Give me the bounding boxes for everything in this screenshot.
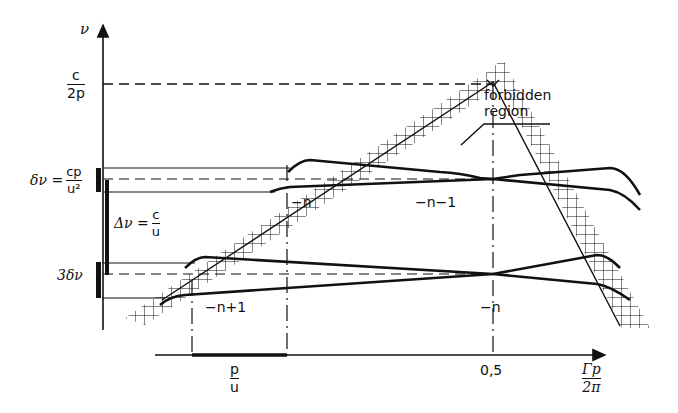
Delta-nu-label: Δν = c u — [114, 208, 160, 238]
allowed-boundary — [162, 82, 620, 326]
branch-lower-a — [185, 257, 630, 300]
x-label-num: Γp — [582, 362, 601, 377]
delta-nu-num: cp — [66, 165, 81, 179]
delta-nu-bar — [96, 168, 101, 192]
tick-c2p-den: 2p — [67, 86, 85, 101]
tick-c2p-num: c — [72, 68, 80, 83]
tick-c-over-2p: c 2p — [67, 68, 85, 100]
Delta-nu-den: u — [152, 225, 160, 239]
three-delta-bar — [96, 262, 101, 298]
branch-label-upper-left: −n — [291, 195, 312, 209]
forbidden-region-label-2: region — [484, 104, 528, 118]
tick-pu-den: u — [230, 380, 239, 395]
Delta-nu-bar — [105, 180, 109, 275]
branch-label-lower-left: −n+1 — [205, 300, 246, 314]
three-delta-nu-label: 3δν — [57, 268, 83, 282]
Delta-nu-num: c — [152, 208, 159, 222]
x-label-den: 2π — [582, 380, 600, 395]
delta-nu-frac: cp u² — [66, 165, 81, 195]
forbidden-region-label-1: forbidden — [484, 88, 551, 102]
branch-label-lower-right: −n — [480, 300, 501, 314]
x-axis-label: Γp 2π — [582, 362, 601, 394]
dispersion-diagram — [0, 0, 678, 413]
delta-nu-den: u² — [67, 182, 80, 196]
Delta-nu-frac: c u — [152, 208, 160, 238]
tick-pu-num: p — [230, 362, 239, 377]
delta-nu-label: δν = cp u² — [30, 165, 82, 195]
branch-label-upper-right: −n−1 — [415, 195, 456, 209]
y-axis-label: ν — [80, 22, 89, 37]
delta-nu-lhs: δν = — [30, 172, 63, 188]
Delta-nu-lhs: Δν = — [114, 215, 149, 231]
tick-half: 0,5 — [480, 363, 502, 377]
tick-p-over-u: p u — [230, 362, 239, 394]
